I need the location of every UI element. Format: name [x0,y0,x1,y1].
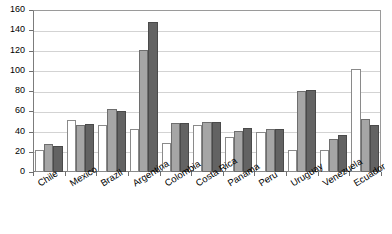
bar-group [223,10,255,172]
bar-group [349,10,381,172]
bar [288,150,297,172]
bar [306,90,315,172]
bar [297,91,306,172]
bar-group [96,10,128,172]
bar-group [286,10,318,172]
y-tick-label: 100 [10,66,25,75]
bar [76,125,85,172]
bar [67,120,76,172]
bar-chart: 020406080100120140160 ChileMexicoBrazilA… [0,0,392,234]
bar [130,129,139,172]
bar [266,129,275,172]
bar-group [128,10,160,172]
bar-group [33,10,65,172]
bar [202,122,211,172]
bar [98,125,107,172]
y-tick-label: 120 [10,46,25,55]
bar-group [254,10,286,172]
y-tick-label: 60 [15,106,25,115]
bar-group [160,10,192,172]
bar [117,111,126,172]
bar [139,50,148,173]
bar [275,129,284,172]
bar [107,109,116,172]
y-tick-label: 160 [10,5,25,14]
y-tick-label: 80 [15,86,25,95]
bar-group [191,10,223,172]
x-axis-labels: ChileMexicoBrazilArgentinaColombiaCosta … [0,176,392,234]
y-tick-label: 0 [20,167,25,176]
y-tick-label: 40 [15,127,25,136]
bar-group [65,10,97,172]
bar [53,146,62,172]
bar [329,139,338,172]
y-axis: 020406080100120140160 [0,0,33,182]
y-tick-label: 140 [10,25,25,34]
bar-group [318,10,350,172]
bars-layer [33,10,381,172]
bar [35,150,44,172]
bar [171,123,180,172]
bar [148,22,157,172]
y-tick-label: 20 [15,147,25,156]
